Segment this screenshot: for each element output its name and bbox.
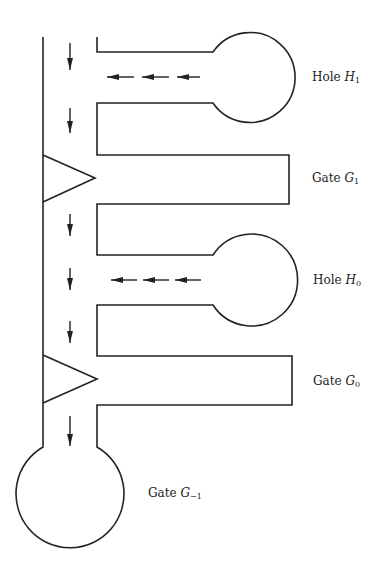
label-gate-g1: Gate G1	[312, 172, 359, 186]
label-hole-h1: Hole H1	[312, 71, 360, 85]
gate-g0-valve	[43, 355, 97, 403]
gate-g1-valve	[43, 155, 95, 202]
label-hole-h0: Hole H0	[313, 274, 361, 288]
label-gate-gm1: Gate G−1	[148, 487, 202, 501]
label-gate-g0: Gate G0	[313, 375, 360, 389]
gate-gm1-reservoir	[16, 445, 124, 548]
hole-h1-outline	[97, 33, 298, 446]
